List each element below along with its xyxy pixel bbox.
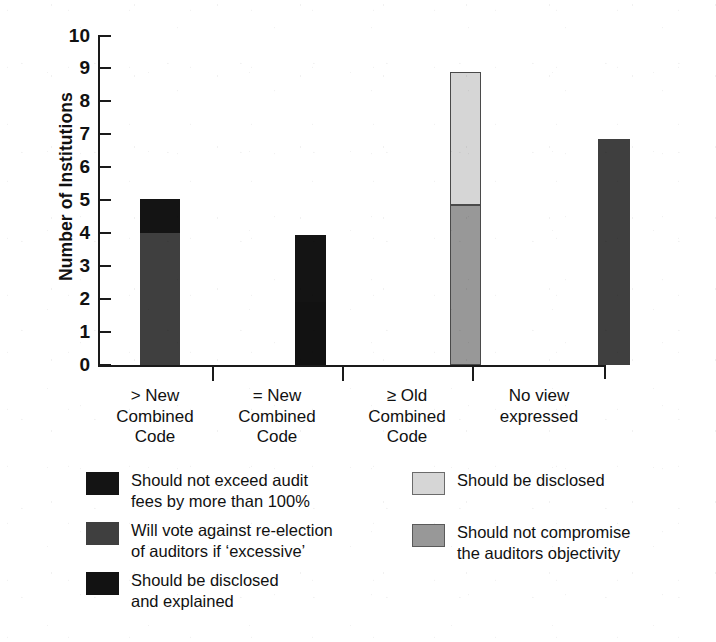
bar-1-segment-1 (140, 233, 180, 365)
legend-item-label: Should not exceed audit fees by more tha… (131, 470, 310, 511)
legend-item-left-1[interactable]: Should not exceed audit fees by more tha… (86, 470, 386, 511)
legend-item-label: Will vote against re-election of auditor… (131, 520, 333, 561)
legend-swatch-icon (412, 472, 445, 495)
y-axis-tick-label-5: 5 (56, 190, 90, 209)
bar-4-segment-1 (598, 139, 630, 365)
bar-1-segment-2 (140, 199, 180, 234)
y-axis-tick-label-10: 10 (56, 26, 90, 45)
y-axis-tick-4 (100, 232, 111, 234)
legend-column-left: Should not exceed audit fees by more tha… (86, 470, 386, 620)
y-axis-tick-10 (100, 35, 111, 37)
legend-swatch-icon (412, 524, 445, 547)
y-axis-tick-0 (100, 364, 111, 366)
bar-chart-figure: Number of Institutions 109876543210 > Ne… (0, 0, 716, 642)
y-axis-tick-2 (100, 298, 111, 300)
y-axis-tick-6 (100, 166, 111, 168)
legend-column-right: Should be disclosedShould not compromise… (412, 470, 712, 572)
legend-swatch-icon (86, 522, 119, 545)
legend-item-label: Should be disclosed (457, 470, 605, 491)
y-axis-tick-7 (100, 133, 111, 135)
legend-item-left-3[interactable]: Should be disclosed and explained (86, 570, 386, 611)
x-axis-divider-1 (212, 367, 214, 381)
x-axis-divider-3 (472, 367, 474, 381)
legend-item-right-1[interactable]: Should be disclosed (412, 470, 712, 495)
x-axis-line (98, 365, 606, 367)
legend-item-label: Should be disclosed and explained (131, 570, 279, 611)
legend-item-left-2[interactable]: Will vote against re-election of auditor… (86, 520, 386, 561)
x-axis-category-label-4: No view expressed (459, 386, 619, 427)
legend-item-right-2[interactable]: Should not compromise the auditors objec… (412, 522, 712, 563)
bar-3-segment-2 (450, 72, 481, 205)
y-axis-tick-label-1: 1 (56, 322, 90, 341)
y-axis-tick-label-6: 6 (56, 157, 90, 176)
y-axis-tick-label-7: 7 (56, 124, 90, 143)
y-axis-tick-label-3: 3 (56, 256, 90, 275)
y-axis-tick-label-2: 2 (56, 289, 90, 308)
y-axis-tick-label-8: 8 (56, 91, 90, 110)
legend: Should not exceed audit fees by more tha… (0, 470, 716, 642)
y-axis-tick-8 (100, 100, 111, 102)
bar-2-segment-2 (295, 235, 326, 303)
bar-2-segment-1 (295, 302, 326, 365)
y-axis-tick-label-4: 4 (56, 223, 90, 242)
x-axis-divider-2 (342, 367, 344, 381)
legend-swatch-icon (86, 572, 119, 595)
x-axis-right-endcap (604, 365, 606, 379)
bar-3-segment-1 (450, 205, 481, 365)
legend-item-label: Should not compromise the auditors objec… (457, 522, 630, 563)
plot-area: Number of Institutions 109876543210 > Ne… (0, 0, 716, 400)
y-axis-tick-label-0: 0 (56, 355, 90, 374)
y-axis-tick-label-9: 9 (56, 58, 90, 77)
y-axis-tick-5 (100, 199, 111, 201)
y-axis-tick-9 (100, 67, 111, 69)
y-axis-tick-1 (100, 331, 111, 333)
legend-swatch-icon (86, 472, 119, 495)
y-axis-tick-3 (100, 265, 111, 267)
